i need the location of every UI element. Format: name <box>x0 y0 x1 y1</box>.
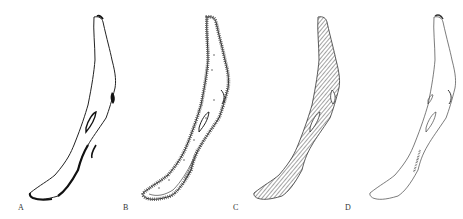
lake-outline-b <box>113 0 229 219</box>
panel-d: D <box>340 0 456 219</box>
panel-label-d: D <box>345 203 351 212</box>
lake-outline-a <box>0 0 116 219</box>
panel-label-a: A <box>18 203 24 212</box>
panel-a: A <box>0 0 116 219</box>
panel-b: B <box>113 0 229 219</box>
panel-c: C <box>224 0 340 219</box>
lake-hatched-c <box>224 0 340 219</box>
lake-outline-d <box>340 0 456 219</box>
panel-label-b: B <box>123 203 128 212</box>
panel-label-c: C <box>233 203 238 212</box>
